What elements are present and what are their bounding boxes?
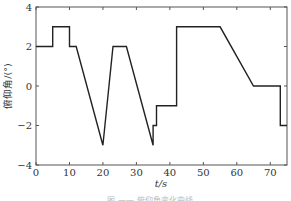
y-tick-label: −2 xyxy=(17,120,32,131)
x-tick-label: 50 xyxy=(197,167,210,178)
x-tick-label: 0 xyxy=(33,167,39,178)
x-axis-label: t/s xyxy=(155,178,168,189)
x-tick-label: 10 xyxy=(63,167,76,178)
x-tick-label: 70 xyxy=(264,167,277,178)
x-tick-label: 20 xyxy=(97,167,110,178)
x-tick-label: 30 xyxy=(130,167,143,178)
x-tick-label: 40 xyxy=(163,167,176,178)
data-series xyxy=(36,27,287,146)
plot-border xyxy=(36,7,287,165)
figure-caption: 图 —— 俯仰角变化曲线 xyxy=(107,195,192,201)
y-tick-label: 2 xyxy=(26,41,32,52)
series-line xyxy=(36,27,287,146)
y-tick-label: −4 xyxy=(17,160,32,171)
y-axis-label: 俯仰角/(°) xyxy=(2,63,13,108)
pitch-angle-chart: 010203040506070 −4−2024 t/s 俯仰角/(°) 图 ——… xyxy=(0,0,291,201)
plot-frame xyxy=(36,7,287,165)
y-tick-label: 0 xyxy=(26,81,32,92)
y-tick-label: 4 xyxy=(26,2,32,13)
x-tick-label: 60 xyxy=(230,167,243,178)
